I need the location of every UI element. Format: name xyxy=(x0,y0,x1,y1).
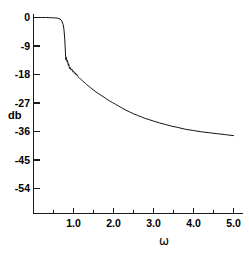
figure-container: 0 -9 -18 -27 -36 -45 -54 db xyxy=(0,0,249,253)
y-tick-label-minus-45: -45 xyxy=(15,154,30,166)
y-tick-label-minus-18: -18 xyxy=(15,68,30,80)
x-tick-label-2-0: 2.0 xyxy=(106,217,121,229)
x-axis-title: ω xyxy=(159,234,169,248)
y-axis-title: db xyxy=(8,109,22,121)
y-tick-label-minus-27: -27 xyxy=(15,97,30,109)
x-tick-label-4-0: 4.0 xyxy=(186,217,201,229)
magnitude-response-plot: 0 -9 -18 -27 -36 -45 -54 db xyxy=(0,0,249,253)
y-tick-label-0: 0 xyxy=(24,11,30,23)
y-tick-label-minus-36: -36 xyxy=(15,125,30,137)
y-tick-label-minus-54: -54 xyxy=(15,182,30,194)
x-tick-label-1-0: 1.0 xyxy=(66,217,81,229)
x-tick-label-5-0: 5.0 xyxy=(226,217,241,229)
x-tick-label-3-0: 3.0 xyxy=(146,217,161,229)
plot-background xyxy=(0,0,249,253)
y-tick-label-minus-9: -9 xyxy=(21,40,30,52)
